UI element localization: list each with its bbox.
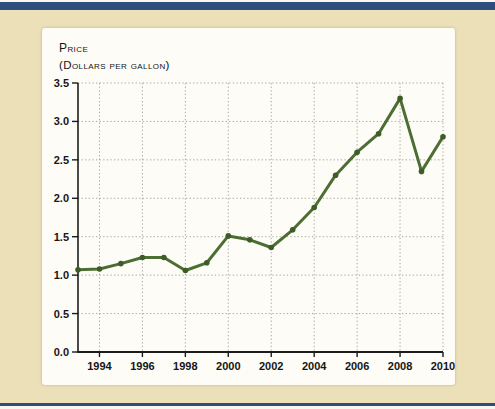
y-tick-label: 0.5 <box>54 308 69 320</box>
data-point-marker <box>97 266 103 272</box>
content-area: Price (Dollars per gallon) 0.00.51.01.52… <box>0 10 495 403</box>
top-accent-bar <box>0 2 495 10</box>
data-point-marker <box>204 260 210 266</box>
data-point-marker <box>183 268 189 274</box>
data-point-marker <box>354 149 360 155</box>
x-tick-label: 2008 <box>388 360 412 372</box>
x-tick-label: 2002 <box>259 360 283 372</box>
data-point-marker <box>397 96 403 102</box>
price-line <box>78 98 443 270</box>
x-tick-label: 1996 <box>130 360 154 372</box>
y-tick-label: 2.0 <box>54 192 69 204</box>
data-point-marker <box>118 261 124 267</box>
x-tick-label: 2006 <box>345 360 369 372</box>
data-point-marker <box>75 267 81 273</box>
y-tick-label: 3.5 <box>54 77 69 89</box>
y-tick-label: 0.0 <box>54 346 69 358</box>
data-point-marker <box>268 245 274 251</box>
x-tick-label: 1994 <box>87 360 112 372</box>
data-point-marker <box>140 255 146 261</box>
data-point-marker <box>333 172 339 178</box>
y-tick-label: 3.0 <box>54 115 69 127</box>
page-container: Price (Dollars per gallon) 0.00.51.01.52… <box>0 0 495 409</box>
y-tick-label: 2.5 <box>54 154 69 166</box>
data-point-marker <box>161 255 167 261</box>
x-tick-label: 2000 <box>216 360 240 372</box>
price-line-chart: 0.00.51.01.52.02.53.03.51994199619982000… <box>42 28 455 385</box>
data-point-marker <box>247 237 253 243</box>
bottom-accent-bar <box>0 403 495 406</box>
x-tick-label: 2010 <box>431 360 455 372</box>
data-point-marker <box>290 227 296 233</box>
data-point-marker <box>440 134 446 140</box>
y-tick-label: 1.5 <box>54 231 69 243</box>
y-tick-label: 1.0 <box>54 269 69 281</box>
data-point-marker <box>376 131 382 137</box>
data-point-marker <box>226 233 232 239</box>
data-point-marker <box>311 205 317 211</box>
x-tick-label: 2004 <box>302 360 327 372</box>
chart-panel: Price (Dollars per gallon) 0.00.51.01.52… <box>42 28 455 385</box>
data-point-marker <box>419 169 425 175</box>
x-tick-label: 1998 <box>173 360 197 372</box>
